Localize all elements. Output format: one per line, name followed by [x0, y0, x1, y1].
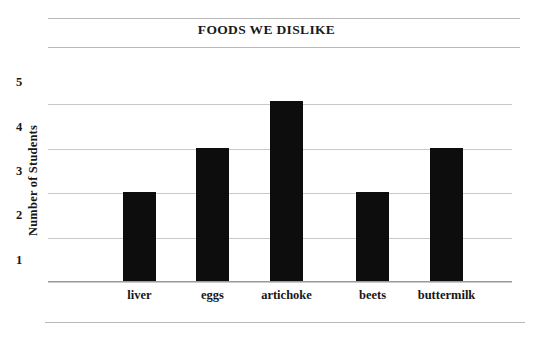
chart-title: FOODS WE DISLIKE: [0, 22, 533, 38]
x-tick-label-eggs: eggs: [201, 288, 224, 303]
y-tick-label: 4: [8, 119, 30, 134]
bottom-frame-rule: [45, 322, 525, 323]
bar-eggs: [196, 148, 229, 281]
x-tick-label-artichoke: artichoke: [261, 288, 312, 303]
top-frame-rule: [48, 18, 520, 19]
y-tick-label: 1: [8, 252, 30, 267]
plot-area: [48, 60, 512, 282]
y-axis-title: Number of Students: [26, 86, 41, 276]
y-tick-label: 3: [8, 164, 30, 179]
x-axis-baseline: [48, 281, 512, 282]
x-tick-label-buttermilk: buttermilk: [418, 288, 476, 303]
y-tick-label: 5: [8, 75, 30, 90]
bar-artichoke: [270, 101, 303, 281]
title-underline-rule: [48, 47, 520, 48]
y-tick-label: 2: [8, 208, 30, 223]
bar-chart-figure: FOODS WE DISLIKE Number of Students 5432…: [0, 0, 533, 339]
gridline: [48, 282, 512, 283]
x-tick-label-liver: liver: [127, 288, 151, 303]
bar-buttermilk: [430, 148, 463, 281]
bar-liver: [123, 192, 156, 281]
x-tick-label-beets: beets: [359, 288, 386, 303]
bar-beets: [356, 192, 389, 281]
